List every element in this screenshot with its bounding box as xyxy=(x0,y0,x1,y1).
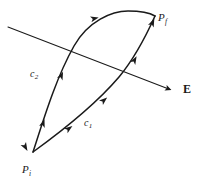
path-c1-arrowheads xyxy=(64,55,139,133)
label-path-c2: c2 xyxy=(30,64,38,80)
label-path-c1-subscript: 1 xyxy=(89,122,93,130)
arrowhead-icon xyxy=(148,17,157,27)
path-c2 xyxy=(33,11,155,152)
label-path-c1: c1 xyxy=(84,113,92,129)
label-final-point-subscript: f xyxy=(165,17,167,26)
label-final-point: Pf xyxy=(158,8,167,24)
label-electric-field: E xyxy=(183,83,191,95)
figure-canvas: Pf Pi c2 c1 E xyxy=(0,0,204,178)
path-c1-curve xyxy=(33,16,155,152)
path-c1 xyxy=(33,16,155,152)
label-path-c1-symbol: c xyxy=(84,117,88,128)
label-initial-point-subscript: i xyxy=(29,169,31,178)
label-initial-point: Pi xyxy=(22,160,31,176)
arrowhead-icon xyxy=(21,142,31,153)
path-c2-curve xyxy=(33,11,155,152)
diagram-svg xyxy=(0,0,204,178)
path-c2-arrowheads xyxy=(39,15,99,128)
initial-point-arrowhead xyxy=(21,142,31,153)
label-path-c2-subscript: 2 xyxy=(35,73,39,81)
label-path-c2-symbol: c xyxy=(30,68,34,79)
final-point-arrowhead xyxy=(148,17,157,27)
label-final-point-symbol: P xyxy=(158,11,165,23)
label-electric-field-symbol: E xyxy=(183,82,191,96)
label-initial-point-symbol: P xyxy=(22,163,29,175)
